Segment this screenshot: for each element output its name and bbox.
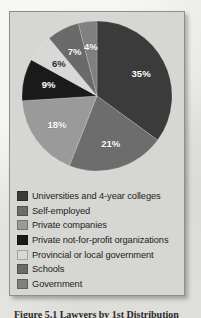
figure-frame: 35%21%18%9%6%7%4% Universities and 4-yea… — [9, 11, 185, 296]
pie-slice-label: 4% — [84, 41, 98, 52]
pie-svg: 35%21%18%9%6%7%4% — [21, 20, 173, 172]
legend-item-label: Universities and 4-year colleges — [32, 191, 161, 201]
legend-color-swatch — [17, 279, 28, 289]
chart-legend: Universities and 4-year collegesSelf-emp… — [10, 187, 184, 295]
legend-item-label: Self-employed — [32, 206, 90, 216]
legend-item-label: Provincial or local government — [32, 250, 154, 260]
legend-item: Government — [17, 276, 180, 291]
legend-item-label: Private not-for-profit organizations — [32, 235, 168, 245]
pie-slice-label: 18% — [47, 119, 67, 130]
legend-color-swatch — [17, 206, 28, 216]
legend-item: Self-employed — [17, 203, 180, 218]
pie-slice-label: 21% — [101, 138, 121, 149]
legend-color-swatch — [17, 264, 28, 274]
figure-caption: Figure 5.1 Lawyers by 1st Distribution — [14, 309, 194, 318]
legend-color-swatch — [17, 250, 28, 260]
legend-item-label: Schools — [32, 264, 64, 274]
pie-slice-label: 9% — [42, 79, 56, 90]
legend-item: Universities and 4-year colleges — [17, 189, 180, 204]
legend-item-label: Government — [32, 279, 82, 289]
legend-item: Schools — [17, 262, 180, 277]
legend-color-swatch — [17, 191, 28, 201]
pie-slice-label: 7% — [68, 46, 82, 57]
pie-slice-label: 35% — [132, 68, 152, 79]
legend-item-label: Private companies — [32, 220, 107, 230]
pie-chart: 35%21%18%9%6%7%4% — [21, 20, 173, 172]
legend-color-swatch — [17, 235, 28, 245]
legend-item: Provincial or local government — [17, 247, 180, 262]
legend-item: Private not-for-profit organizations — [17, 233, 180, 248]
legend-item: Private companies — [17, 218, 180, 233]
pie-chart-area: 35%21%18%9%6%7%4% — [10, 12, 184, 180]
legend-color-swatch — [17, 220, 28, 230]
pie-slice-label: 6% — [52, 58, 66, 69]
